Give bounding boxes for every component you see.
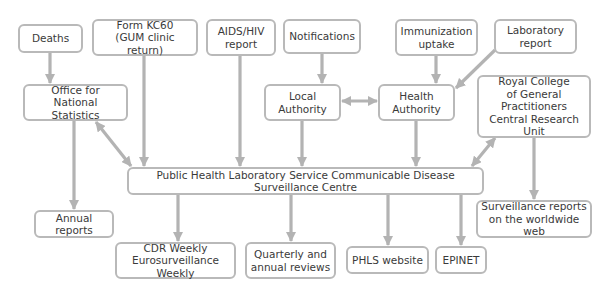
node-surveillance-web-reports: Surveillance reports on the worldwide we… <box>476 200 592 238</box>
node-health-authority: Health Authority <box>378 84 455 121</box>
node-phls-website: PHLS website <box>346 246 429 274</box>
surveillance-flow-diagram: Deaths Form KC60 (GUM clinic return) AID… <box>0 0 609 295</box>
node-epinet: EPINET <box>435 246 487 274</box>
node-laboratory-report: Laboratory report <box>494 19 577 54</box>
node-deaths: Deaths <box>18 24 83 53</box>
arrow-rcgp-to-phls_cdsc <box>472 138 495 166</box>
node-notifications: Notifications <box>283 19 361 54</box>
node-local-authority: Local Authority <box>264 84 341 121</box>
node-phls-cdsc: Public Health Laboratory Service Communi… <box>127 167 484 195</box>
node-cdr-weekly: CDR Weekly Eurosurveillance Weekly <box>115 242 236 279</box>
node-office-national-statistics: Office for National Statistics <box>23 84 128 121</box>
arrow-ons-to-phls_cdsc <box>96 122 131 166</box>
node-immunization-uptake: Immunization uptake <box>395 19 478 56</box>
node-form-kc60: Form KC60 (GUM clinic return) <box>92 19 198 56</box>
node-annual-reports: Annual reports <box>34 210 114 238</box>
node-rcgp-research-unit: Royal College of General Practitioners C… <box>477 75 591 138</box>
node-quarterly-reviews: Quarterly and annual reviews <box>245 242 336 279</box>
node-aids-hiv-report: AIDS/HIV report <box>206 19 276 56</box>
